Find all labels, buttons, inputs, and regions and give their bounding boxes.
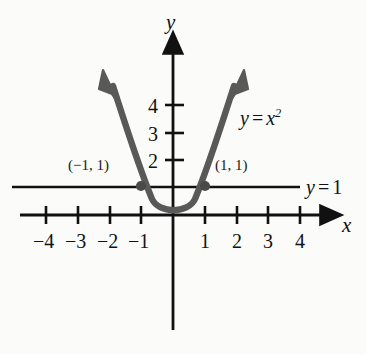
line-equation-equals: = bbox=[315, 176, 332, 198]
line-equation-rhs: 1 bbox=[332, 176, 342, 198]
line-equation-label: y=1 bbox=[306, 177, 342, 197]
y-axis-label: y bbox=[166, 12, 175, 33]
curve-equation-label: y=x2 bbox=[240, 107, 281, 128]
x-tick-label-minus1: −1 bbox=[128, 231, 149, 251]
x-tick-label-minus4: −4 bbox=[33, 231, 54, 251]
y-tick-label-4: 4 bbox=[148, 96, 158, 116]
x-axis-label: x bbox=[342, 215, 351, 236]
line-equation-lhs: y bbox=[306, 176, 315, 198]
curve-equation-base: x bbox=[266, 107, 275, 129]
x-tick-label-3: 3 bbox=[263, 231, 273, 251]
x-tick-label-4: 4 bbox=[295, 231, 305, 251]
x-tick-label-2: 2 bbox=[232, 231, 242, 251]
point-label-right: (1, 1) bbox=[215, 158, 248, 173]
curve-equation-exponent: 2 bbox=[275, 106, 281, 120]
curve-equation-lhs: y bbox=[240, 107, 249, 129]
y-tick-label-2: 2 bbox=[148, 151, 158, 171]
x-tick-label-minus2: −2 bbox=[97, 231, 118, 251]
point-label-left: (−1, 1) bbox=[68, 158, 109, 173]
graph-figure: y x 4 3 2 −4 −3 −2 −1 1 2 3 4 y=x2 y=1 (… bbox=[0, 0, 366, 354]
x-tick-label-minus3: −3 bbox=[65, 231, 86, 251]
intersection-point-right bbox=[200, 181, 210, 191]
curve-equation-equals: = bbox=[249, 107, 266, 129]
y-axis-ticks bbox=[165, 105, 184, 160]
x-tick-label-1: 1 bbox=[200, 231, 210, 251]
y-tick-label-3: 3 bbox=[148, 124, 158, 144]
intersection-point-left bbox=[136, 181, 146, 191]
